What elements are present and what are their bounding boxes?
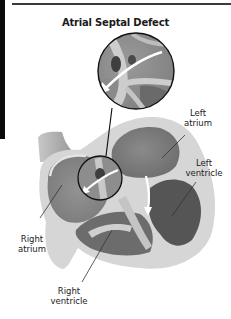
label-left-ventricle-line2: ventricle (182, 168, 226, 178)
label-left-atrium-line2: atrium (180, 118, 216, 128)
label-left-ventricle-line1: Left (182, 158, 226, 168)
label-right-ventricle-line1: Right (46, 286, 92, 296)
label-left-ventricle: Left ventricle (182, 158, 226, 178)
label-right-ventricle: Right ventricle (46, 286, 92, 306)
label-right-atrium: Right atrium (14, 234, 50, 254)
label-right-atrium-line2: atrium (14, 244, 50, 254)
label-right-atrium-line1: Right (14, 234, 50, 244)
label-left-atrium-line1: Left (180, 108, 216, 118)
label-left-atrium: Left atrium (180, 108, 216, 128)
magnified-defect-view (96, 31, 176, 112)
label-right-ventricle-line2: ventricle (46, 296, 92, 306)
